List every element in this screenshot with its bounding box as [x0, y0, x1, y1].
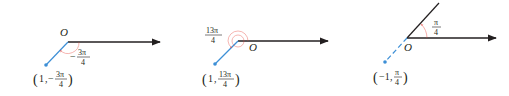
origin-label: O [404, 41, 412, 53]
svg-text:): ) [403, 70, 408, 86]
svg-text:−1: −1 [379, 71, 390, 82]
svg-text:−: − [48, 73, 54, 84]
svg-text:,: , [214, 73, 217, 84]
point-dot [44, 63, 48, 67]
svg-text:13π: 13π [206, 26, 218, 35]
svg-text:4: 4 [81, 58, 85, 67]
svg-text:(: ( [202, 72, 207, 88]
svg-text:−: − [70, 51, 76, 62]
point-dot [383, 60, 387, 64]
point-ray [215, 41, 238, 64]
angle-label: 13π 4 [205, 26, 222, 45]
angle-label: − 3π 4 [70, 48, 90, 67]
angle-arc [228, 31, 248, 48]
svg-text:13π: 13π [219, 70, 231, 79]
svg-text:π: π [434, 18, 438, 27]
svg-text:(: ( [33, 72, 38, 88]
point-label: ( 1 , − 3π 4 ) [33, 70, 73, 89]
svg-text:4: 4 [395, 78, 399, 87]
point-dot [213, 62, 217, 66]
angle-label: π 4 [432, 18, 441, 37]
panel-2: O 13π 4 ( 1 , 13π 4 ) [202, 26, 328, 89]
svg-text:(: ( [373, 70, 378, 86]
svg-text:4: 4 [223, 80, 227, 89]
svg-text:3π: 3π [56, 70, 64, 79]
angle-arc [421, 24, 427, 38]
panel-3: O π 4 ( −1 , π 4 ) [373, 3, 496, 87]
panel-1: O − 3π 4 ( 1 , − 3π 4 ) [33, 26, 160, 89]
polar-coordinates-diagram: O − 3π 4 ( 1 , − 3π 4 ) O 13π 4 [0, 0, 509, 96]
svg-text:π: π [395, 68, 399, 77]
svg-text:4: 4 [434, 28, 438, 37]
origin-label: O [60, 26, 68, 38]
origin-label: O [249, 41, 257, 53]
svg-text:3π: 3π [78, 48, 86, 57]
point-label: ( −1 , π 4 ) [373, 68, 408, 87]
point-label: ( 1 , 13π 4 ) [202, 70, 240, 89]
svg-text:,: , [390, 71, 393, 82]
svg-text:1: 1 [208, 73, 213, 84]
svg-text:4: 4 [211, 36, 215, 45]
svg-text:1: 1 [39, 73, 44, 84]
svg-text:4: 4 [59, 80, 63, 89]
svg-text:): ) [235, 72, 240, 88]
svg-text:): ) [68, 72, 73, 88]
